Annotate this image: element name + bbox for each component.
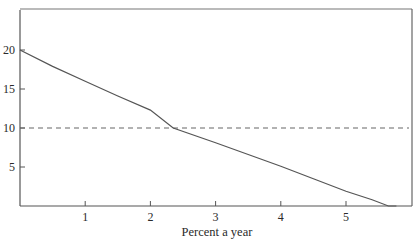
x-axis-title: Percent a year	[182, 225, 254, 239]
x-tick-label: 5	[343, 210, 349, 224]
chart: 5101520 12345 Percent a year	[0, 0, 414, 241]
y-axis-ticks: 5101520	[3, 43, 25, 174]
x-axis-ticks: 12345	[82, 201, 349, 224]
x-tick-label: 2	[147, 210, 153, 224]
y-tick-label: 15	[3, 82, 15, 96]
y-tick-label: 5	[9, 160, 15, 174]
x-tick-label: 1	[82, 210, 88, 224]
x-tick-label: 4	[278, 210, 284, 224]
plot-frame	[20, 9, 412, 206]
y-tick-label: 20	[3, 43, 15, 57]
x-tick-label: 3	[213, 210, 219, 224]
y-tick-label: 10	[3, 121, 15, 135]
